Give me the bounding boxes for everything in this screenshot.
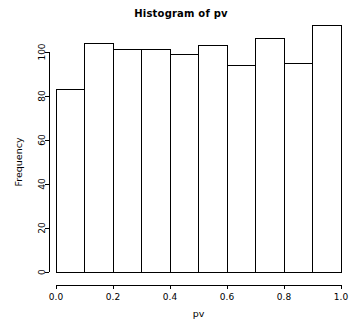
x-tick-label: 0.2	[106, 292, 120, 302]
bars-group	[56, 26, 341, 272]
histogram-bar	[313, 26, 342, 272]
histogram-bar	[199, 45, 228, 272]
y-axis: 020406080100	[37, 43, 49, 275]
y-tick-label: 20	[37, 222, 47, 234]
x-axis-title: pv	[193, 308, 205, 319]
histogram-bar	[227, 65, 256, 272]
y-tick-label: 40	[37, 178, 47, 190]
x-axis: 0.00.20.40.60.81.0	[49, 285, 349, 302]
histogram-bar	[170, 54, 199, 272]
histogram-bar	[113, 50, 142, 272]
histogram-bar	[284, 63, 313, 272]
x-tick-label: 0.4	[163, 292, 178, 302]
x-tick-label: 0.6	[220, 292, 235, 302]
y-axis-title: Frequency	[13, 137, 24, 186]
histogram-bar	[85, 43, 114, 272]
y-tick-label: 0	[37, 269, 47, 275]
x-tick-label: 0.0	[49, 292, 64, 302]
y-tick-label: 80	[37, 90, 47, 102]
plot-canvas: 020406080100 0.00.20.40.60.81.0 pvFreque…	[0, 0, 362, 331]
histogram-bar	[56, 89, 85, 272]
x-tick-label: 0.8	[277, 292, 292, 302]
histogram-plot: Histogram of pv 020406080100 0.00.20.40.…	[0, 0, 362, 331]
histogram-bar	[256, 39, 285, 272]
histogram-bar	[142, 50, 171, 272]
y-tick-label: 60	[37, 134, 47, 146]
y-tick-label: 100	[37, 43, 47, 60]
x-tick-label: 1.0	[334, 292, 349, 302]
